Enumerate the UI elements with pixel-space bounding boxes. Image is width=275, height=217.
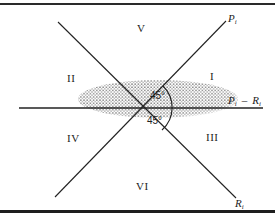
axis-label-right-sub: i [259, 100, 261, 108]
p-line-label: Pi [228, 13, 237, 26]
r-line-label: Ri [235, 198, 244, 211]
angle-label-lower: 45° [147, 116, 162, 126]
p-line-label-sub: i [235, 18, 237, 26]
region-label-iii: III [206, 132, 219, 143]
region-label-v: V [137, 23, 145, 34]
r-line-label-base: R [235, 197, 242, 209]
axis-label-left-base: P [228, 94, 235, 106]
region-label-i: I [210, 71, 214, 82]
axis-label-right-base: R [252, 94, 259, 106]
axis-label-left-sub: i [235, 100, 237, 108]
region-label-ii: II [67, 73, 75, 84]
region-label-vi: VI [136, 181, 149, 192]
angle-label-upper: 45° [150, 91, 165, 101]
axis-label-operator: – [242, 94, 248, 106]
diagram-frame: V II I IV III VI Pi Ri Pi–Ri 45° 45° [0, 0, 275, 217]
horizontal-axis-label: Pi–Ri [228, 95, 261, 108]
r-line-label-sub: i [242, 203, 244, 211]
p-line-label-base: P [228, 12, 235, 24]
region-label-iv: IV [67, 133, 80, 144]
